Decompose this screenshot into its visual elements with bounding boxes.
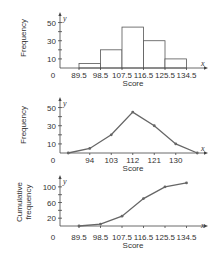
y-axis-arrow-icon (58, 175, 61, 179)
x-tick-label: 121 (148, 156, 162, 165)
histogram-x-axis-title: Score (123, 79, 144, 88)
x-tick-label: 103 (105, 156, 119, 165)
ogive-point (142, 197, 145, 200)
histogram-bar (144, 41, 166, 68)
ogive-y-letter: y (62, 177, 67, 186)
x-tick-label: 107.5 (112, 71, 133, 80)
frequency-polygon-point (67, 152, 70, 155)
frequency-polygon-point (88, 147, 91, 150)
x-tick-label: 134.5 (176, 71, 197, 80)
x-tick-label: 134.5 (176, 233, 197, 242)
histogram-y-axis-title: Frequency (19, 19, 28, 57)
histogram-bar (122, 27, 144, 68)
ogive-origin-label: 0 (51, 233, 56, 242)
y-axis-arrow-icon (58, 97, 61, 101)
frequency-polygon-line (68, 112, 197, 153)
x-tick-label: 116.5 (134, 71, 154, 80)
y-tick-label: 60 (47, 199, 56, 208)
y-axis-arrow-icon (58, 12, 61, 16)
y-tick-label: 50 (47, 19, 56, 28)
y-tick-label: 30 (47, 37, 56, 46)
ogive-point (78, 225, 81, 228)
ogive-x-axis-title: Score (123, 241, 144, 250)
y-tick-label: 10 (47, 55, 56, 64)
histogram-panel: Frequency Score 0 y x 10305089.598.5107.… (19, 12, 208, 88)
y-tick-label: 50 (47, 104, 56, 113)
y-tick-label: 30 (47, 122, 56, 131)
histogram-bar (101, 50, 123, 68)
x-tick-label: 112 (126, 156, 139, 165)
histogram-y-letter: y (62, 14, 67, 23)
y-tick-label: 100 (43, 183, 57, 192)
frequency-polygon-point (131, 111, 134, 114)
x-tick-label: 125.5 (155, 71, 176, 80)
x-axis-arrow-icon (204, 66, 208, 70)
y-tick-label: 10 (47, 140, 56, 149)
x-tick-label: 130 (169, 156, 183, 165)
polygon-origin-label: 0 (51, 156, 56, 165)
x-tick-label: 89.5 (71, 71, 87, 80)
ogive-point (185, 182, 188, 185)
frequency-polygon-point (153, 124, 156, 127)
y-tick-label: 20 (47, 214, 56, 223)
histogram-bar (79, 63, 101, 68)
polygon-x-axis-title: Score (123, 164, 144, 173)
ogive-line (79, 183, 187, 226)
x-tick-label: 98.5 (93, 71, 109, 80)
ogive-panel: Cumulative frequency Score 0 y x 2060100… (15, 175, 208, 250)
x-tick-label: 98.5 (93, 233, 109, 242)
ogive-point (99, 223, 102, 226)
x-axis-arrow-icon (204, 224, 208, 228)
x-tick-label: 125.5 (155, 233, 176, 242)
x-tick-label: 116.5 (134, 233, 154, 242)
frequency-polygon-point (196, 152, 199, 155)
frequency-polygon-point (174, 143, 177, 146)
histogram-origin-label: 0 (51, 71, 56, 80)
polygon-y-letter: y (62, 99, 67, 108)
polygon-y-axis-title: Frequency (19, 106, 28, 144)
histogram-bar (165, 59, 187, 68)
frequency-polygon-panel: Frequency Score 0 y x 103050941031121211… (19, 97, 208, 173)
x-tick-label: 94 (85, 156, 94, 165)
ogive-point (164, 185, 167, 188)
frequency-polygon-point (110, 133, 113, 136)
ogive-y-axis-title-line-1: Cumulative (15, 181, 24, 222)
ogive-y-axis-title-line-2: frequency (24, 184, 33, 219)
x-axis-arrow-icon (204, 151, 208, 155)
ogive-point (121, 215, 124, 218)
x-tick-label: 89.5 (71, 233, 87, 242)
charts-figure: Frequency Score 0 y x 10305089.598.5107.… (0, 0, 224, 259)
x-tick-label: 107.5 (112, 233, 133, 242)
